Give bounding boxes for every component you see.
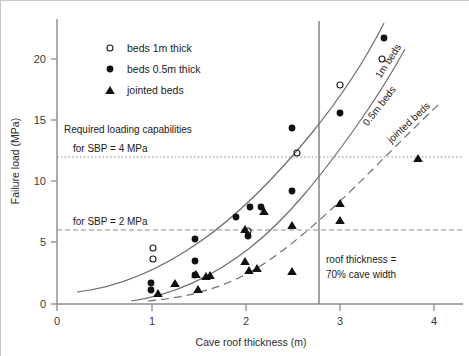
data-point — [148, 287, 155, 294]
y-tick-label-20: 20 — [34, 53, 46, 65]
legend-label-jointed-beds: jointed beds — [126, 84, 184, 96]
data-point — [192, 236, 199, 243]
y-tick-label-10: 10 — [34, 175, 46, 187]
data-point — [289, 188, 296, 195]
data-point — [233, 214, 240, 221]
legend-label-beds-1m-thick: beds 1m thick — [127, 42, 193, 54]
y-axis-title: Failure load (MPa) — [9, 118, 21, 204]
data-point — [337, 110, 344, 117]
x-tick-label-4: 4 — [431, 315, 437, 327]
x-tick-label-1: 1 — [149, 315, 155, 327]
legend-marker-filled-circle-icon — [107, 66, 114, 73]
chart-figure: 0 5 10 15 20 0 1 2 3 4 Cave roof thickne… — [0, 0, 469, 356]
data-point — [245, 233, 252, 240]
y-tick-label-5: 5 — [40, 236, 46, 248]
x-tick-label-0: 0 — [54, 315, 60, 327]
data-point — [148, 280, 155, 287]
annotation-required-loading: Required loading capabilities — [64, 124, 192, 135]
annotation-roof-thickness-line2: 70% cave width — [326, 269, 396, 280]
annotation-roof-thickness-line1: roof thickness = — [326, 254, 396, 265]
data-point — [289, 125, 296, 132]
x-tick-label-3: 3 — [337, 315, 343, 327]
y-tick-label-15: 15 — [34, 114, 46, 126]
data-point — [192, 258, 199, 265]
y-tick-label-0: 0 — [40, 298, 46, 310]
data-point — [247, 204, 254, 211]
data-point — [381, 35, 388, 42]
legend-label-beds-05m-thick: beds 0.5m thick — [127, 63, 201, 75]
x-axis-title: Cave roof thickness (m) — [196, 336, 307, 348]
annotation-sbp-4mpa: for SBP = 4 MPa — [73, 143, 148, 154]
annotation-sbp-2mpa: for SBP = 2 MPa — [73, 216, 148, 227]
x-tick-label-2: 2 — [243, 315, 249, 327]
failure-load-vs-cave-roof-thickness-chart: 0 5 10 15 20 0 1 2 3 4 Cave roof thickne… — [1, 1, 469, 356]
